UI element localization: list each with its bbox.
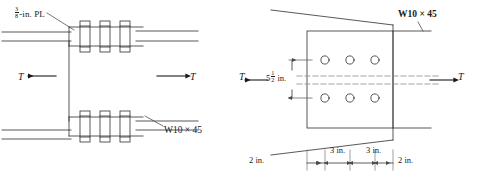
lower-bolt-group [80,111,130,142]
plate-thickness-label: 3 8 -in. PL [14,6,45,19]
bolt-hole [371,94,379,102]
dimension-label-3in-first: 3 in. [330,145,345,155]
vertical-dim-fraction: 12 [271,70,275,83]
bolt-hole [346,56,354,64]
right-view-group [245,10,454,170]
beam-designation-right: W10 × 45 [398,9,437,19]
left-view-group [2,13,198,142]
bolt [100,21,110,52]
engineering-figure [0,0,479,180]
centerlines [297,76,440,84]
dimension-label-2in-left: 2 in. [249,155,264,165]
connection-plate [307,31,393,128]
bolt [120,21,130,52]
bolt [80,111,90,142]
force-label-right-section: T [458,71,464,82]
upper-right-beam-lines [136,31,198,41]
beam-taper-top [271,10,393,25]
bolt [80,21,90,52]
upper-left-beam-lines [2,32,71,41]
plate-label-suffix: -in. PL [19,9,45,19]
vertical-dim-unit: in. [277,73,286,83]
bolt-hole [321,94,329,102]
vertical-dimension-label: 512 in. [266,70,286,83]
force-label-right-plan: T [190,71,196,82]
bolt-hole [346,94,354,102]
bolt [120,111,130,142]
beam-designation-left: W10 × 45 [164,125,202,135]
dimension-label-3in-second: 3 in. [366,145,381,155]
lower-left-beam-lines [2,130,71,139]
bolt-hole-row-top [321,56,379,64]
plate-leader-line [47,13,74,30]
beam-leader-line-right [418,22,423,31]
upper-bolt-group [80,21,130,52]
bolt-hole-row-bottom [321,94,379,102]
bolt-hole [321,56,329,64]
force-label-left-plan: T [18,71,24,82]
bolt [100,111,110,142]
force-label-left-section: T [239,71,245,82]
vertical-dim-whole: 5 [266,73,270,83]
bolt-hole [371,56,379,64]
dimension-label-2in-right: 2 in. [398,155,413,165]
